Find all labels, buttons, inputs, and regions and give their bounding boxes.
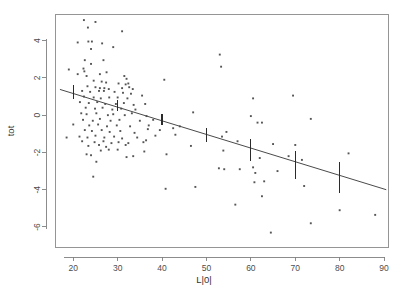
data-point bbox=[85, 107, 87, 109]
data-point bbox=[253, 181, 255, 183]
data-point bbox=[303, 185, 305, 187]
data-point bbox=[100, 150, 102, 152]
data-point bbox=[95, 21, 97, 23]
data-point bbox=[133, 104, 135, 106]
data-point bbox=[99, 118, 101, 120]
data-point bbox=[84, 129, 86, 131]
data-point bbox=[103, 140, 105, 142]
data-point bbox=[221, 136, 223, 138]
plot-background bbox=[0, 0, 408, 297]
data-point bbox=[374, 214, 376, 216]
data-point bbox=[87, 137, 89, 139]
data-point bbox=[272, 143, 274, 145]
x-tick-label: 30 bbox=[113, 263, 123, 273]
data-point bbox=[154, 135, 156, 137]
data-point bbox=[310, 222, 312, 224]
y-tick-label: -4 bbox=[32, 186, 42, 194]
data-point bbox=[83, 70, 85, 72]
data-point bbox=[148, 124, 150, 126]
data-point bbox=[132, 155, 134, 157]
data-point bbox=[252, 166, 254, 168]
data-point bbox=[115, 103, 117, 105]
data-point bbox=[301, 159, 303, 161]
data-point bbox=[218, 167, 220, 169]
data-point bbox=[121, 87, 123, 89]
data-point bbox=[165, 188, 167, 190]
x-tick-label: 60 bbox=[246, 263, 256, 273]
data-point bbox=[106, 71, 108, 73]
data-point bbox=[163, 79, 165, 81]
data-point bbox=[92, 176, 94, 178]
data-point bbox=[130, 93, 132, 95]
data-point bbox=[88, 124, 90, 126]
data-point bbox=[220, 66, 222, 68]
data-point bbox=[118, 83, 120, 85]
data-point bbox=[126, 78, 128, 80]
data-point bbox=[93, 97, 95, 99]
data-point bbox=[121, 30, 123, 32]
data-point bbox=[99, 73, 101, 75]
data-point bbox=[174, 134, 176, 136]
data-point bbox=[89, 91, 91, 93]
data-point bbox=[132, 88, 134, 90]
data-point bbox=[83, 19, 85, 21]
data-point bbox=[97, 124, 99, 126]
x-tick-label: 50 bbox=[202, 263, 212, 273]
data-point bbox=[91, 130, 93, 132]
data-point bbox=[117, 149, 119, 151]
data-point bbox=[152, 119, 154, 121]
data-point bbox=[222, 150, 224, 152]
data-point bbox=[143, 151, 145, 153]
data-point bbox=[348, 152, 350, 154]
data-point bbox=[121, 138, 123, 140]
x-axis-title: L|0| bbox=[196, 274, 212, 285]
data-point bbox=[107, 114, 109, 116]
data-point bbox=[105, 146, 107, 148]
data-point bbox=[98, 144, 100, 146]
data-point bbox=[87, 145, 89, 147]
data-point bbox=[99, 87, 101, 89]
data-point bbox=[141, 95, 143, 97]
x-tick-label: 70 bbox=[291, 263, 301, 273]
data-point bbox=[166, 153, 168, 155]
data-point bbox=[103, 90, 105, 92]
data-point bbox=[259, 157, 261, 159]
data-point bbox=[123, 75, 125, 77]
data-point bbox=[92, 120, 94, 122]
x-tick-label: 80 bbox=[335, 263, 345, 273]
data-point bbox=[123, 102, 125, 104]
data-point bbox=[134, 109, 136, 111]
data-point bbox=[103, 137, 105, 139]
data-point bbox=[263, 180, 265, 182]
data-point bbox=[219, 54, 221, 56]
data-point bbox=[117, 97, 119, 99]
data-point bbox=[68, 69, 70, 71]
data-point bbox=[112, 113, 114, 115]
data-point bbox=[106, 125, 108, 127]
data-point bbox=[95, 112, 97, 114]
data-point bbox=[79, 101, 81, 103]
scatter-plot-figure: 2030405060708090 420-2-4-6 L|0| tot bbox=[0, 0, 408, 297]
data-point bbox=[94, 108, 96, 110]
data-point bbox=[87, 85, 89, 87]
data-point bbox=[288, 155, 290, 157]
data-point bbox=[94, 141, 96, 143]
data-point bbox=[250, 115, 252, 117]
x-tick-label: 20 bbox=[69, 263, 79, 273]
data-point bbox=[79, 136, 81, 138]
data-point bbox=[90, 63, 92, 65]
data-point bbox=[84, 59, 86, 61]
data-point bbox=[116, 124, 118, 126]
data-point bbox=[292, 95, 294, 97]
chart-canvas: 2030405060708090 420-2-4-6 L|0| tot bbox=[0, 0, 408, 297]
data-point bbox=[93, 80, 95, 82]
data-point bbox=[294, 144, 296, 146]
data-point bbox=[81, 90, 83, 92]
data-point bbox=[66, 137, 68, 139]
data-point bbox=[101, 81, 103, 83]
data-point bbox=[102, 107, 104, 109]
data-point bbox=[234, 204, 236, 206]
x-tick-label: 40 bbox=[157, 263, 167, 273]
data-point bbox=[100, 97, 102, 99]
data-point bbox=[131, 112, 133, 114]
